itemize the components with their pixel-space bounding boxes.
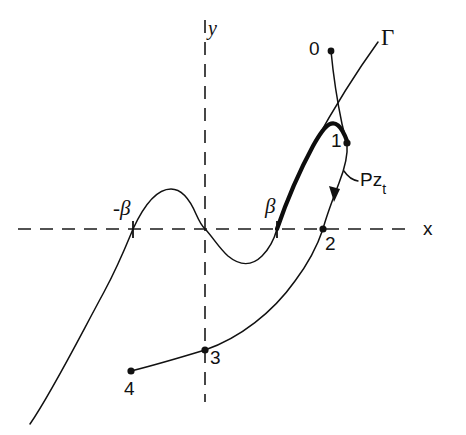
beta-label: β [265, 196, 275, 217]
pz-operator-subscript: t [382, 181, 386, 197]
contour-diagram-canvas [0, 0, 466, 435]
downward-arrow-head [329, 186, 340, 202]
point-2-label: 2 [325, 234, 336, 253]
point-0-dot [328, 48, 335, 55]
y-axis-label: y [208, 18, 217, 38]
point-1-dot [343, 139, 350, 146]
gamma-curve-label: Γ [381, 26, 394, 49]
point-3-dot [201, 346, 208, 353]
pz-operator-label: Pzt [360, 170, 386, 193]
point-4-label: 4 [124, 379, 135, 398]
point-3-label: 3 [210, 348, 221, 367]
lower-contour-path [131, 229, 323, 371]
point-2-dot [319, 225, 326, 232]
point-1-label: 1 [331, 131, 342, 150]
point-0-label: 0 [309, 39, 320, 58]
pz-leader-line [344, 171, 358, 181]
pz-operator-base: Pz [360, 169, 382, 190]
point-4-dot [127, 367, 134, 374]
minus-beta-label: -β [113, 198, 130, 219]
x-axis-label: x [423, 219, 433, 238]
figure-container: y x Γ 0 1 2 3 4 -β β Pzt [0, 0, 466, 435]
